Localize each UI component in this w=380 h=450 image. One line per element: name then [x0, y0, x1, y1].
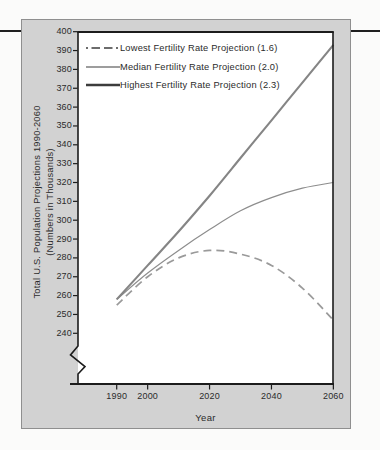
legend-label: Median Fertility Rate Projection (2.0)	[120, 62, 278, 72]
x-tick-label: 2060	[315, 391, 351, 402]
y-axis-title: Total U.S. Population Projections 1990-2…	[31, 42, 57, 362]
x-axis-title: Year	[78, 412, 333, 423]
legend-swatch-dashed	[86, 42, 120, 54]
legend-label: Highest Fertility Rate Projection (2.3)	[120, 80, 280, 90]
x-tick-label: 2020	[192, 391, 228, 402]
legend-label: Lowest Fertility Rate Projection (1.6)	[120, 43, 277, 53]
legend-swatch-thin-solid	[86, 61, 120, 73]
y-tick-label: 400	[42, 26, 72, 37]
y-axis-title-line2: (Numbers in Thousands)	[44, 42, 57, 362]
legend-swatch-thick-solid	[86, 79, 120, 91]
legend-item: Median Fertility Rate Projection (2.0)	[86, 58, 280, 77]
legend-item: Highest Fertility Rate Projection (2.3)	[86, 76, 280, 95]
x-tick-label: 2040	[253, 391, 289, 402]
y-axis-title-line1: Total U.S. Population Projections 1990-2…	[31, 42, 44, 362]
legend: Lowest Fertility Rate Projection (1.6)Me…	[86, 39, 280, 95]
legend-item: Lowest Fertility Rate Projection (1.6)	[86, 39, 280, 58]
page: 4003903803703603503403303203103002902802…	[0, 0, 380, 450]
x-tick-label: 2000	[130, 391, 166, 402]
